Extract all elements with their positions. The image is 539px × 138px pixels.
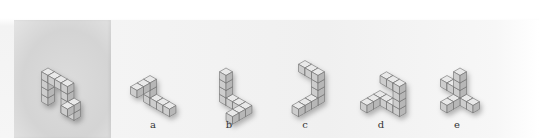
option-shape-e bbox=[441, 68, 480, 113]
option-label-a[interactable]: a bbox=[143, 119, 163, 130]
option-label-c[interactable]: c bbox=[295, 119, 315, 130]
option-shape-c bbox=[292, 61, 324, 117]
option-shape-a bbox=[131, 76, 176, 117]
option-shape-d bbox=[361, 72, 406, 117]
option-figures bbox=[0, 0, 539, 138]
option-label-e[interactable]: e bbox=[447, 119, 467, 130]
option-shape-b bbox=[220, 68, 252, 124]
puzzle-canvas: a b c d e bbox=[0, 0, 539, 138]
option-label-b[interactable]: b bbox=[219, 119, 239, 130]
option-label-d[interactable]: d bbox=[371, 119, 391, 130]
